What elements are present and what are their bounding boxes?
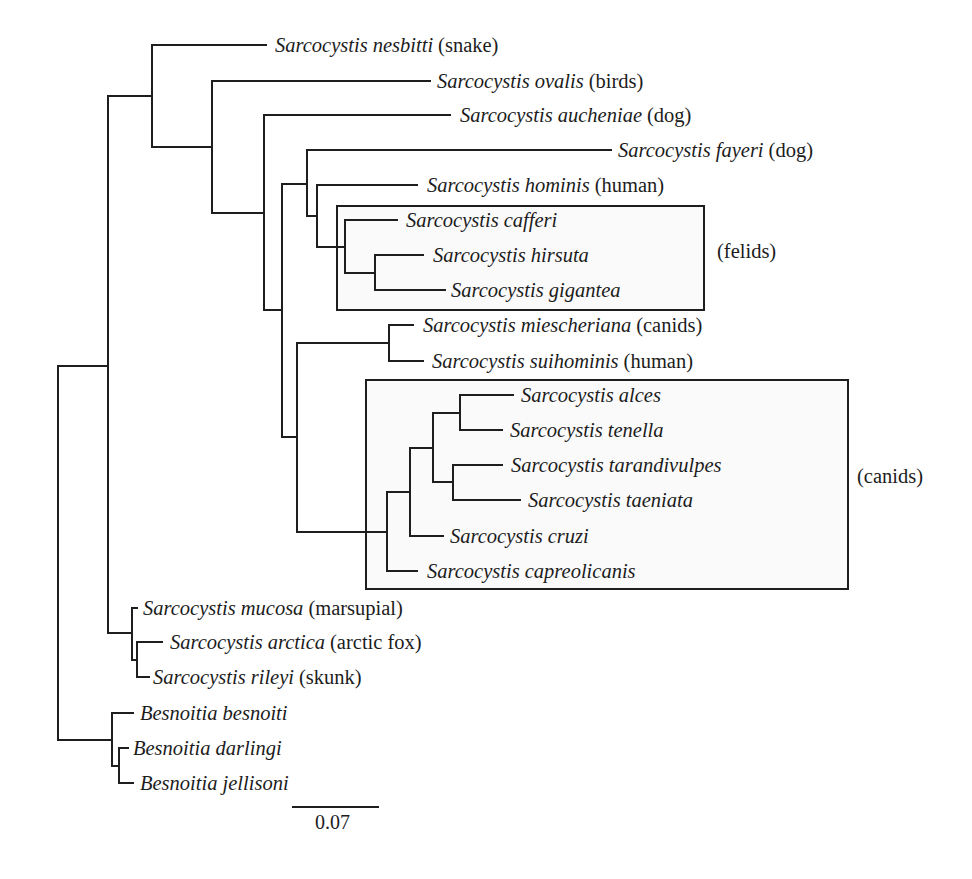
taxon-label-miescheriana: Sarcocystis miescheriana(canids): [423, 313, 702, 337]
species-name: Sarcocystis tenella: [510, 419, 664, 441]
canids-group-label: (canids): [857, 464, 923, 488]
taxon-label-tarandivulpes: Sarcocystis tarandivulpes: [511, 453, 721, 477]
taxon-label-alces: Sarcocystis alces: [521, 383, 661, 407]
host-name: (dog): [769, 139, 813, 161]
species-name: Sarcocystis cafferi: [406, 209, 557, 231]
scale-bar-label: 0.07: [315, 810, 350, 834]
taxon-label-fayeri: Sarcocystis fayeri(dog): [618, 138, 813, 162]
taxon-label-nesbitti: Sarcocystis nesbitti(snake): [275, 33, 498, 57]
taxon-label-hirsuta: Sarcocystis hirsuta: [433, 243, 589, 267]
species-name: Sarcocystis nesbitti: [275, 34, 433, 56]
host-name: (birds): [589, 70, 644, 92]
species-name: Sarcocystis hominis: [427, 174, 590, 196]
host-name: (skunk): [299, 666, 362, 688]
species-name: Sarcocystis suihominis: [432, 350, 619, 372]
taxon-label-gigantea: Sarcocystis gigantea: [451, 278, 620, 302]
species-name: Sarcocystis taeniata: [528, 489, 693, 511]
felids-group-label: (felids): [717, 239, 776, 263]
taxon-label-suihominis: Sarcocystis suihominis(human): [432, 349, 693, 373]
species-name: Besnoitia besnoiti: [140, 702, 287, 724]
species-name: Sarcocystis alces: [521, 384, 661, 406]
host-name: (snake): [438, 34, 498, 56]
species-name: Besnoitia darlingi: [133, 737, 282, 759]
host-name: (human): [624, 350, 693, 372]
taxon-label-ovalis: Sarcocystis ovalis(birds): [437, 69, 643, 93]
taxon-label-cruzi: Sarcocystis cruzi: [450, 524, 589, 548]
taxon-label-taeniata: Sarcocystis taeniata: [528, 488, 693, 512]
host-name: (marsupial): [308, 597, 403, 619]
species-name: Sarcocystis hirsuta: [433, 244, 589, 266]
root-branch: [58, 366, 112, 740]
host-name: (canids): [636, 314, 702, 336]
taxon-label-besnoiti: Besnoitia besnoiti: [140, 701, 287, 725]
host-name: (human): [595, 174, 664, 196]
taxon-label-rileyi: Sarcocystis rileyi(skunk): [153, 665, 362, 689]
species-name: Sarcocystis fayeri: [618, 139, 764, 161]
taxon-label-tenella: Sarcocystis tenella: [510, 418, 664, 442]
taxon-label-arctica: Sarcocystis arctica(arctic fox): [170, 630, 422, 654]
taxon-label-darlingi: Besnoitia darlingi: [133, 736, 282, 760]
taxon-label-jellisoni: Besnoitia jellisoni: [140, 771, 289, 795]
species-name: Sarcocystis rileyi: [153, 666, 294, 688]
species-name: Sarcocystis cruzi: [450, 525, 589, 547]
species-name: Sarcocystis miescheriana: [423, 314, 631, 336]
taxon-label-mucosa: Sarcocystis mucosa(marsupial): [143, 596, 403, 620]
species-name: Sarcocystis mucosa: [143, 597, 303, 619]
species-name: Sarcocystis capreolicanis: [427, 560, 636, 582]
species-name: Sarcocystis ovalis: [437, 70, 584, 92]
taxon-label-capreolicanis: Sarcocystis capreolicanis: [427, 559, 636, 583]
besnoitia-clade-branches: [112, 713, 133, 783]
taxon-label-cafferi: Sarcocystis cafferi: [406, 208, 557, 232]
species-name: Besnoitia jellisoni: [140, 772, 289, 794]
taxon-label-hominis: Sarcocystis hominis(human): [427, 173, 664, 197]
taxon-label-aucheniae: Sarcocystis aucheniae(dog): [460, 103, 691, 127]
species-name: Sarcocystis arctica: [170, 631, 325, 653]
canids-clade-box: [366, 380, 848, 589]
species-name: Sarcocystis gigantea: [451, 279, 620, 301]
species-name: Sarcocystis tarandivulpes: [511, 454, 721, 476]
species-name: Sarcocystis aucheniae: [460, 104, 642, 126]
host-name: (arctic fox): [330, 631, 422, 653]
host-name: (dog): [647, 104, 691, 126]
